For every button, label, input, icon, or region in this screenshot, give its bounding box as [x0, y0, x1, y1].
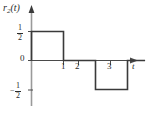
- signal-waveform-figure: r2(t) 1 2 0 − 1 2 1 2 3 t: [0, 0, 146, 115]
- negative-fraction: − 1 2: [10, 82, 21, 100]
- fraction-denominator: 2: [17, 34, 23, 42]
- y-tick-label-zero: 0: [20, 54, 25, 63]
- y-axis-title: r2(t): [3, 3, 20, 15]
- fraction-numerator: 1: [17, 24, 23, 32]
- minus-sign: −: [10, 87, 15, 95]
- x-tick-label-2: 2: [75, 62, 80, 71]
- x-tick-label-1: 1: [61, 62, 66, 71]
- fraction-one-half: 1 2: [17, 24, 23, 42]
- fraction-numerator: 1: [15, 82, 21, 90]
- y-axis-arrowhead: [29, 5, 35, 13]
- y-tick-label-neg-half: − 1 2: [10, 82, 21, 100]
- x-axis-label: t: [132, 62, 135, 71]
- y-axis-title-argument: (t): [10, 2, 19, 13]
- fraction-denominator: 2: [15, 92, 21, 100]
- x-tick-label-3: 3: [107, 62, 112, 71]
- fraction-one-half-neg: 1 2: [15, 82, 21, 100]
- y-tick-label-half: 1 2: [17, 24, 23, 42]
